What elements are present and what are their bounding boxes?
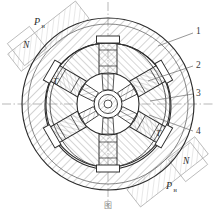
svg-text:P: P bbox=[165, 180, 172, 191]
svg-text:P: P bbox=[33, 16, 40, 27]
piston-body bbox=[99, 134, 117, 167]
figure-caption: 图 bbox=[0, 201, 217, 210]
piston-top bbox=[97, 36, 120, 74]
callout-1-label: 1 bbox=[196, 26, 201, 36]
force-label-n-top-left: N bbox=[22, 40, 30, 50]
cross-section-drawing: 1 2 3 4 P н N N P н T T bbox=[0, 0, 217, 210]
shaft-bore bbox=[104, 100, 112, 108]
piston-shoe bbox=[97, 165, 120, 172]
callout-4-label: 4 bbox=[196, 126, 201, 136]
callout-2-label: 2 bbox=[196, 60, 201, 70]
callout-3-label: 3 bbox=[196, 88, 201, 98]
force-label-n-bottom-right: N bbox=[182, 156, 190, 166]
figure-radial-piston-pump: 1 2 3 4 P н N N P н T T bbox=[0, 0, 217, 210]
piston-body bbox=[99, 41, 117, 74]
piston-shoe bbox=[97, 36, 120, 43]
piston-bottom bbox=[97, 134, 120, 172]
rotor-hub bbox=[77, 73, 139, 135]
